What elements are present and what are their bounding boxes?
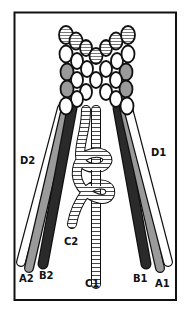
bead xyxy=(60,98,73,115)
label-c2: C2 xyxy=(64,236,78,247)
bead xyxy=(121,26,135,44)
label-b2: B2 xyxy=(39,270,54,281)
bead xyxy=(90,72,102,88)
label-b1: B1 xyxy=(133,273,148,284)
label-a2: A2 xyxy=(19,273,34,284)
bead xyxy=(100,61,112,77)
bead xyxy=(122,46,135,63)
label-c1: C1 xyxy=(85,278,99,289)
label-d2: D2 xyxy=(20,155,35,166)
bead xyxy=(121,98,134,115)
label-d1: D1 xyxy=(151,147,166,158)
knot-diagram: D2D1C2C1A2B2B1A1 xyxy=(0,0,191,312)
label-a1: A1 xyxy=(155,278,170,289)
